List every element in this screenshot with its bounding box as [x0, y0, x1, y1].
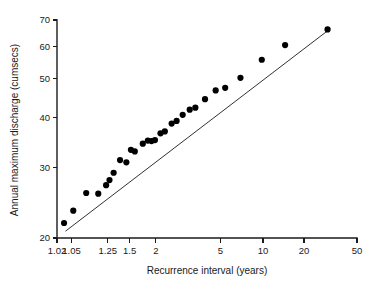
x-axis-title: Recurrence interval (years): [147, 265, 268, 276]
data-point: [132, 148, 138, 154]
data-point: [61, 220, 67, 226]
x-tick-label: 50: [352, 245, 363, 256]
x-tick-label: 1.25: [99, 245, 118, 256]
x-axis-tick-labels: 1.021.051.251.525102050: [48, 245, 363, 256]
x-tick-label: 1.5: [123, 245, 136, 256]
chart-figure: Annual maximum discharge (cumsecs) Recur…: [0, 0, 379, 285]
y-tick-label: 20: [39, 232, 50, 243]
data-point: [123, 159, 129, 165]
y-tick-label: 70: [39, 14, 50, 25]
data-point: [202, 96, 208, 102]
y-tick-label: 60: [39, 41, 50, 52]
data-point: [222, 85, 228, 91]
data-point: [180, 112, 186, 118]
data-point: [162, 128, 168, 134]
x-tick-label: 5: [218, 245, 223, 256]
data-point: [259, 57, 265, 63]
data-point: [192, 105, 198, 111]
y-axis-title: Annual maximum discharge (cumsecs): [9, 44, 20, 216]
y-tick-label: 30: [39, 162, 50, 173]
data-point: [237, 75, 243, 81]
data-point: [70, 208, 76, 214]
scatter-plot-canvas: Annual maximum discharge (cumsecs) Recur…: [0, 0, 379, 285]
data-point: [324, 26, 330, 32]
data-point: [282, 42, 288, 48]
data-point: [152, 137, 158, 143]
data-point: [187, 107, 193, 113]
data-point: [106, 177, 112, 183]
y-tick-label: 50: [39, 73, 50, 84]
data-point: [111, 170, 117, 176]
x-tick-label: 1.05: [62, 245, 81, 256]
data-point: [83, 190, 89, 196]
y-tick-label: 40: [39, 112, 50, 123]
y-axis-tick-labels: 706050403020: [39, 14, 50, 243]
x-tick-label: 20: [299, 245, 310, 256]
data-point: [213, 87, 219, 93]
data-point: [103, 182, 109, 188]
x-tick-label: 10: [258, 245, 269, 256]
data-point: [95, 191, 101, 197]
data-point: [117, 157, 123, 163]
data-point-group: [61, 26, 331, 226]
data-point: [174, 118, 180, 124]
regression-trend-line: [65, 29, 330, 232]
x-tick-label: 2: [153, 245, 158, 256]
